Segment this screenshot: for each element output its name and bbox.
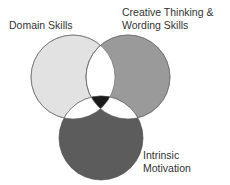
creative-thinking-label-line1: Creative Thinking & (122, 6, 213, 18)
intrinsic-motivation-label-line1: Intrinsic (143, 149, 179, 161)
creative-thinking-label-line2: Wording Skills (122, 19, 188, 31)
domain-skills-label: Domain Skills (9, 19, 73, 31)
intrinsic-motivation-label-line2: Motivation (143, 162, 191, 174)
